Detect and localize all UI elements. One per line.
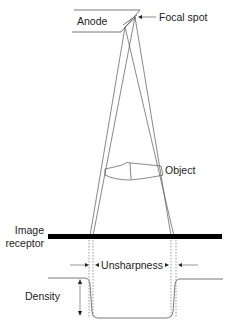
penumbra-guides bbox=[89, 240, 176, 318]
object-label: Object bbox=[165, 164, 195, 176]
object bbox=[105, 162, 163, 180]
unsharpness-label: Unsharpness bbox=[101, 259, 163, 271]
density-arrow bbox=[78, 279, 82, 316]
image-receptor-label-line2: receptor bbox=[5, 237, 44, 249]
focal-spot-arrow bbox=[138, 15, 156, 19]
anode-label: Anode bbox=[77, 15, 108, 27]
unsharpness-diagram: Anode Focal spot Object Image receptor bbox=[0, 0, 235, 324]
density-label: Density bbox=[25, 290, 61, 302]
density-curve bbox=[48, 278, 223, 318]
image-receptor-label-line1: Image bbox=[15, 224, 44, 236]
image-receptor bbox=[48, 234, 222, 239]
focal-spot-label: Focal spot bbox=[159, 11, 208, 23]
x-ray-beam bbox=[90, 17, 174, 236]
